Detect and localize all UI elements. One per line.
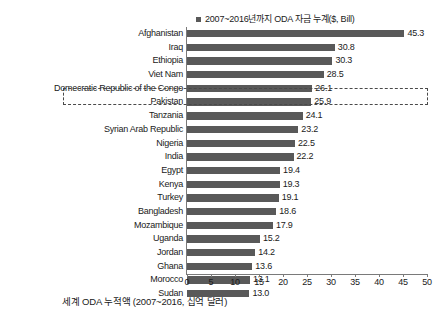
bar (187, 263, 252, 270)
bar (187, 249, 255, 256)
bar-category-label: Pakistan (150, 95, 186, 109)
bar-value-label: 28.5 (324, 68, 344, 82)
x-axis-tick-label: 40 (374, 277, 384, 288)
bar-value-label: 13.6 (252, 260, 272, 274)
bar (187, 98, 311, 105)
bar (187, 71, 324, 78)
bar-row: Domecratic Republic of the Congo26.1 (0, 82, 441, 96)
x-axis-tick-label: 0 (185, 277, 190, 288)
bar-category-label: Domecratic Republic of the Congo (54, 82, 186, 96)
bar-category-label: Jordan (157, 246, 186, 260)
legend-label: 2007~2016년까지 ODA 자금 누계($, Bill) (205, 14, 355, 24)
bar (187, 153, 294, 160)
bar-value-label: 17.9 (273, 219, 293, 233)
bar-value-label: 18.6 (276, 205, 296, 219)
bar-row: Viet Nam28.5 (0, 68, 441, 82)
bar-category-label: Afghanistan (138, 27, 186, 41)
x-axis-tick-label: 35 (350, 277, 360, 288)
bar-value-label: 24.1 (303, 109, 323, 123)
x-axis-tick-label: 10 (230, 277, 240, 288)
x-axis-tick-label: 30 (326, 277, 336, 288)
bar (187, 181, 280, 188)
bar-row: Turkey19.1 (0, 191, 441, 205)
bar-category-label: Egypt (161, 164, 186, 178)
bar-category-label: Mozambique (134, 219, 186, 233)
bar-category-label: Ethiopia (152, 54, 186, 68)
bar-row: Kenya19.3 (0, 178, 441, 192)
bar-category-label: Uganda (153, 232, 186, 246)
bar-category-label: Iraq (168, 41, 186, 55)
x-axis-tick-label: 5 (209, 277, 214, 288)
x-axis-tick-label: 20 (278, 277, 288, 288)
bar (187, 44, 335, 51)
x-axis-tick-label: 15 (254, 277, 264, 288)
bar (187, 112, 303, 119)
bar (187, 57, 332, 64)
bar-value-label: 19.3 (280, 178, 300, 192)
bar-value-label: 45.3 (404, 27, 424, 41)
legend-color-swatch-icon (196, 17, 201, 22)
bar-row: Ghana13.6 (0, 260, 441, 274)
horizontal-bar-chart: 2007~2016년까지 ODA 자금 누계($, Bill) Afghanis… (0, 0, 441, 315)
bar-row: Jordan14.2 (0, 246, 441, 260)
chart-caption: 세계 ODA 누적액 (2007~2016, 십억 달러) (62, 296, 227, 308)
bar-row: Nigeria22.5 (0, 137, 441, 151)
bar-rows: Afghanistan45.3Iraq30.8Ethiopia30.3Viet … (0, 27, 441, 301)
bar-row: Syrian Arab Republic23.2 (0, 123, 441, 137)
bar-category-label: Viet Nam (148, 68, 186, 82)
bar-row: Mozambique17.9 (0, 219, 441, 233)
bar-value-label: 25.9 (311, 95, 331, 109)
bar-row: Uganda15.2 (0, 232, 441, 246)
bar (187, 235, 260, 242)
bar (187, 208, 276, 215)
chart-legend: 2007~2016년까지 ODA 자금 누계($, Bill) (196, 12, 355, 26)
bar-row: Tanzania24.1 (0, 109, 441, 123)
bar-value-label: 14.2 (255, 246, 275, 260)
bar-category-label: Turkey (157, 191, 186, 205)
bar-category-label: Syrian Arab Republic (104, 123, 186, 137)
bar (187, 85, 312, 92)
bar-row: Ethiopia30.3 (0, 54, 441, 68)
bar-category-label: Bangladesh (138, 205, 186, 219)
bar-category-label: India (165, 150, 186, 164)
bar-value-label: 30.3 (332, 54, 352, 68)
bar-value-label: 23.2 (298, 123, 318, 137)
bar (187, 194, 279, 201)
bar-value-label: 22.2 (294, 150, 314, 164)
plot-area: Afghanistan45.3Iraq30.8Ethiopia30.3Viet … (0, 27, 441, 274)
bar-value-label: 22.5 (295, 137, 315, 151)
bar-value-label: 30.8 (335, 41, 355, 55)
bar-value-label: 13.0 (249, 287, 269, 301)
bar (187, 126, 298, 133)
bar-row: Bangladesh18.6 (0, 205, 441, 219)
bar-row: Pakistan25.9 (0, 95, 441, 109)
bar (187, 140, 295, 147)
x-axis-tick-label: 25 (302, 277, 312, 288)
bar-value-label: 19.1 (279, 191, 299, 205)
bar-value-label: 15.2 (260, 232, 280, 246)
x-axis-tick-label: 45 (398, 277, 408, 288)
bar-value-label: 19.4 (280, 164, 300, 178)
bar-category-label: Morocco (150, 273, 186, 287)
x-axis-tick-label: 50 (422, 277, 432, 288)
bar-row: India22.2 (0, 150, 441, 164)
bar-row: Egypt19.4 (0, 164, 441, 178)
bar-category-label: Ghana (157, 260, 186, 274)
bar (187, 222, 273, 229)
bar-row: Afghanistan45.3 (0, 27, 441, 41)
bar (187, 276, 250, 283)
bar (187, 30, 404, 37)
bar-category-label: Kenya (159, 178, 186, 192)
bar-row: Iraq30.8 (0, 41, 441, 55)
bar-value-label: 26.1 (312, 82, 332, 96)
bar-category-label: Tanzania (149, 109, 186, 123)
bar-category-label: Nigeria (156, 137, 186, 151)
bar (187, 167, 280, 174)
